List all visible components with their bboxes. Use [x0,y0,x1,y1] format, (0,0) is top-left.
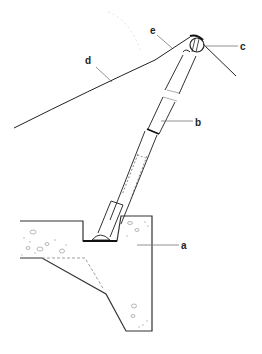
diagram-canvas: a b c d e [0,0,262,354]
label-a: a [181,240,187,251]
cable-back-stay [203,44,236,76]
label-c: c [240,41,246,52]
label-e: e [150,25,156,36]
label-d: d [85,55,91,66]
leader-lines [96,35,238,245]
label-b: b [195,117,201,128]
foundation-a [20,216,152,331]
diagram-svg: a b c d e [0,0,262,354]
pulley-c [183,36,204,53]
cable-d [14,37,190,128]
faint-arc [108,12,140,50]
